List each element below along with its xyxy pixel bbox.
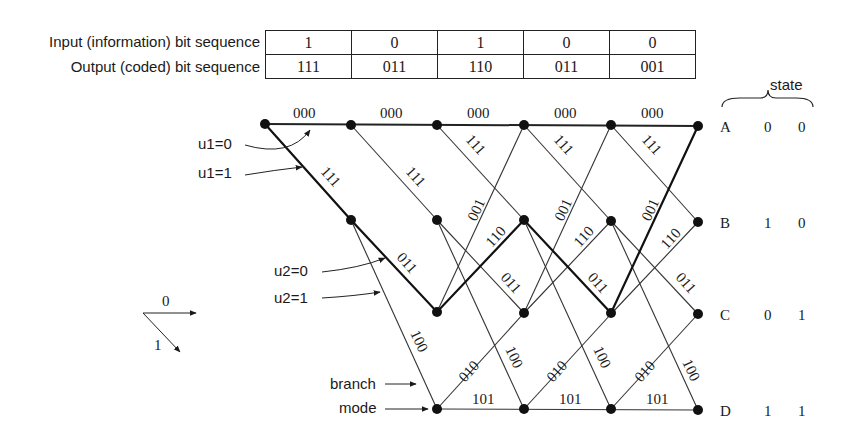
state-bit: 0 — [798, 215, 806, 231]
annotation-u2-1: u2=1 — [274, 289, 308, 306]
arrow-u2-1 — [322, 292, 380, 298]
state-bit: 0 — [764, 119, 772, 135]
branch-label-AA: 000 — [467, 105, 490, 121]
direction-legend: 0 1 — [143, 293, 196, 353]
annotation-branch: branch — [330, 375, 376, 392]
arrow-u2-0 — [322, 258, 385, 272]
branch-label-AB: 111 — [639, 131, 665, 158]
annotation-mode: mode — [339, 399, 377, 416]
legend-label-1: 1 — [154, 337, 162, 353]
branch-label-BD: 100 — [502, 344, 526, 371]
branch-label-BC: 011 — [498, 269, 525, 296]
branch-label-CA: 001 — [464, 196, 488, 223]
branch-label-BC: 011 — [394, 249, 421, 276]
branch-label-AA: 000 — [641, 105, 664, 121]
state-bit: 0 — [764, 307, 772, 323]
trellis-diagram: 000 000 000 000 000 111 111 111 111 111 … — [0, 0, 842, 441]
state-bit: 1 — [798, 307, 806, 323]
state-name: A — [720, 119, 731, 135]
branch-label-DC: 010 — [455, 358, 482, 385]
branch-label-BD: 100 — [679, 357, 703, 384]
branch-label-CB: 110 — [570, 223, 597, 250]
state-bit: 1 — [798, 403, 806, 419]
state-name: B — [720, 215, 730, 231]
annotation-u2-0: u2=0 — [274, 262, 308, 279]
legend-label-0: 0 — [162, 293, 170, 309]
branch-label-BC: 011 — [673, 269, 700, 296]
branch-label-AA: 000 — [380, 105, 403, 121]
branch-label-DD: 101 — [472, 391, 495, 407]
branch-label-AB: 111 — [463, 131, 489, 158]
state-bit: 0 — [798, 119, 806, 135]
annotation-u1-0: u1=0 — [198, 135, 232, 152]
arrow-u1-1 — [245, 167, 302, 175]
branch-label-DD: 101 — [559, 391, 582, 407]
branch-label-CB: 110 — [657, 225, 684, 252]
branch-label-AB: 111 — [551, 131, 577, 158]
branch-label-DC: 010 — [543, 358, 570, 385]
annotation-u1-1: u1=1 — [198, 164, 232, 181]
branch-label-CB: 110 — [482, 223, 509, 250]
branch-label-CA: 001 — [638, 196, 662, 223]
branch-label-CA: 001 — [551, 196, 575, 223]
branch-label-AA: 000 — [293, 105, 316, 121]
branch-label-BD: 100 — [590, 344, 614, 371]
branch-label-BC: 011 — [585, 269, 612, 296]
state-bit: 1 — [764, 403, 772, 419]
state-bit: 1 — [764, 215, 772, 231]
state-header: state — [770, 76, 803, 93]
state-name: C — [720, 307, 730, 323]
branch-label-DD: 101 — [646, 391, 669, 407]
branch-label-AA: 000 — [554, 105, 577, 121]
state-name: D — [720, 403, 731, 419]
